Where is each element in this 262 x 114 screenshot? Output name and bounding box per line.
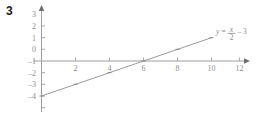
x-tick-label: 12 [236,64,244,73]
equation-constant: 3 [243,27,247,36]
y-tick-label: –2 [27,69,36,78]
equation-denominator: 2 [230,33,234,42]
x-tick-label: 2 [74,64,78,73]
data-series-line [42,38,212,96]
y-tick-label: 2 [32,22,36,31]
x-tick-label: 10 [208,64,216,73]
equation-equals: = [222,27,226,36]
y-tick-labels: 3 2 1 0 –1 –2 –3 –4 [27,10,36,101]
x-tick-label: 8 [176,64,180,73]
x-axis-arrow-icon [244,58,250,64]
figure-container: 3 2 4 [0,0,262,114]
y-tick-label: 0 [32,45,36,54]
y-tick-label: –1 [27,57,36,66]
x-tick-label: 6 [142,64,146,73]
equation-minus: – [237,27,242,36]
y-axis-arrow-icon [39,5,45,11]
x-tick-labels: 2 4 6 8 10 12 [74,64,244,73]
line-chart: 2 4 6 8 10 12 3 2 1 0 –1 –2 –3 –4 [0,0,262,114]
x-tick-label: 4 [108,64,112,73]
series-line-segment [42,38,212,96]
y-tick-label: –3 [27,80,36,89]
y-tick-label: 1 [32,34,36,43]
equation-lhs: y [215,27,220,36]
axes-group [33,5,250,112]
y-tick-label: 3 [32,10,36,19]
equation-label: y = x 2 – 3 [215,25,247,43]
x-tick-marks [76,58,240,62]
y-tick-label: –4 [27,92,36,101]
